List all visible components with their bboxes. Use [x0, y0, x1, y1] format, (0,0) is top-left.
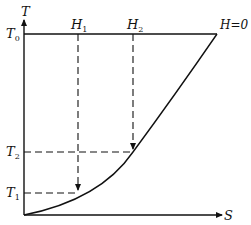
ts-diagram: T S T0 T2 T1 H1 H2 H=0 — [0, 0, 251, 225]
curve — [24, 34, 217, 215]
t0-label: T0 — [6, 26, 20, 43]
h1-label: H1 — [70, 17, 87, 34]
h2-label: H2 — [126, 17, 143, 34]
y-axis-label: T — [21, 4, 31, 19]
t2-label: T2 — [6, 144, 20, 161]
h0-label: H=0 — [219, 18, 249, 32]
t1-label: T1 — [6, 185, 20, 202]
x-axis-label: S — [224, 208, 233, 223]
